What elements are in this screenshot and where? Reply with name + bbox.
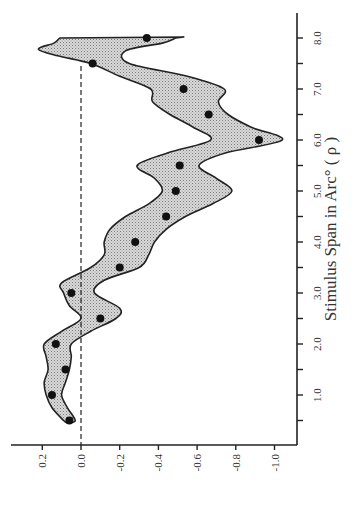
span-tick-label: 2.0 bbox=[311, 337, 323, 351]
value-tick-label: 0.0 bbox=[75, 454, 87, 468]
confidence-band bbox=[38, 37, 282, 423]
chart: 0.20.0-0.2-0.4-0.6-0.8-1.01.02.03.04.05.… bbox=[0, 0, 353, 523]
data-point bbox=[96, 315, 104, 323]
data-point bbox=[162, 213, 170, 221]
data-point bbox=[205, 111, 213, 119]
data-point bbox=[176, 162, 184, 170]
data-point bbox=[131, 238, 139, 246]
value-tick-label: -0.2 bbox=[114, 454, 126, 471]
data-point bbox=[180, 85, 188, 93]
value-tick-label: -0.8 bbox=[230, 454, 242, 472]
value-tick-label: -0.4 bbox=[152, 454, 164, 472]
data-point bbox=[65, 417, 73, 425]
data-point bbox=[89, 60, 97, 68]
span-tick-label: 1.0 bbox=[311, 388, 323, 402]
value-tick-label: -0.6 bbox=[191, 454, 203, 472]
span-tick-label: 8.0 bbox=[311, 31, 323, 45]
data-point bbox=[67, 289, 75, 297]
x-axis-title: Stimulus Span in Arc° ( ρ ) bbox=[321, 137, 340, 321]
value-tick-label: -1.0 bbox=[269, 454, 281, 472]
span-tick-label: 7.0 bbox=[311, 82, 323, 96]
data-point bbox=[52, 340, 60, 348]
data-point bbox=[172, 187, 180, 195]
value-tick-label: 0.2 bbox=[36, 454, 48, 468]
data-point bbox=[255, 136, 263, 144]
data-point bbox=[48, 391, 56, 399]
data-point bbox=[62, 366, 70, 374]
data-point bbox=[143, 34, 151, 42]
confidence-band-layer bbox=[38, 37, 282, 423]
data-point bbox=[116, 264, 124, 272]
